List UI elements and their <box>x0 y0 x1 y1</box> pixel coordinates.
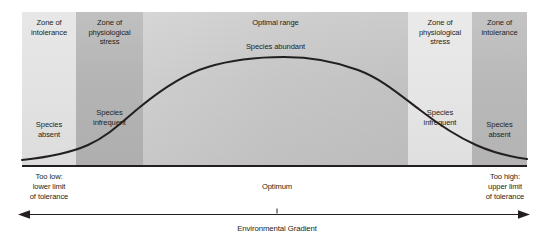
axis-caption-optimum: Optimum <box>237 182 317 192</box>
status-label-left-infrequent: Species infrequent <box>76 108 143 127</box>
tolerance-curve-figure: Zone of intolerance Zone of physiologica… <box>0 0 554 245</box>
zone-label-left-stress: Zone of physiological stress <box>76 18 143 47</box>
axis-caption-lower-limit: Too low: lower limit of tolerance <box>8 172 90 201</box>
environmental-gradient-title: Environmental Gradient <box>0 224 554 233</box>
status-label-right-infrequent: Species infrequent <box>408 108 472 127</box>
plot-area: Zone of intolerance Zone of physiologica… <box>22 12 527 167</box>
environmental-gradient-arrow <box>18 206 530 222</box>
zone-label-right-stress: Zone of physiological stress <box>408 18 472 47</box>
plot-baseline <box>22 165 527 167</box>
zone-label-right-intolerance: Zone of intolerance <box>472 18 527 37</box>
right-arrow-icon <box>518 210 530 219</box>
status-label-left-absent: Species absent <box>22 120 76 139</box>
left-arrow-icon <box>18 210 30 219</box>
status-label-right-absent: Species absent <box>472 120 527 139</box>
zone-label-left-intolerance: Zone of intolerance <box>22 18 76 37</box>
zone-label-optimal-range: Optimal range <box>143 18 408 28</box>
axis-caption-upper-limit: Too high: upper limit of tolerance <box>463 172 547 201</box>
status-label-species-abundant: Species abundant <box>143 42 408 52</box>
